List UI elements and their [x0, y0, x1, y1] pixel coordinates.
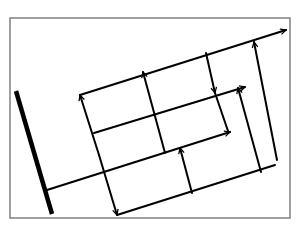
perp-6-arrow-line — [254, 42, 277, 160]
perp-3-arrow-line — [180, 148, 192, 193]
left-perp-down-arrow-line — [99, 155, 117, 215]
perp-4-rest-arrow-line — [215, 93, 228, 131]
top-axis-arrow-line — [80, 30, 286, 95]
perp-5-arrow-line — [238, 88, 261, 172]
diagram-canvas — [0, 0, 301, 231]
perp-4-down-arrow-line — [206, 53, 215, 93]
lower-mid-axis-arrow-line — [47, 132, 230, 190]
mid-axis-arrow-line — [94, 87, 245, 133]
thick-wall-bar — [16, 91, 52, 214]
bottom-axis-arrow-line — [117, 165, 275, 215]
vector-lines — [47, 30, 286, 215]
left-perp-up-arrow-line — [80, 95, 99, 155]
